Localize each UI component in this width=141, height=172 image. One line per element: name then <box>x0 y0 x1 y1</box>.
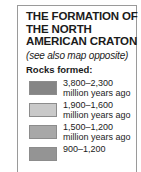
legend-color-swatch <box>29 125 57 139</box>
legend-item: 1,900–1,600 million years ago <box>26 101 132 123</box>
panel-title-line-3: AMERICAN CRATON <box>26 35 132 48</box>
legend-item-unit: million years ago <box>63 110 133 121</box>
legend-item-label: 3,800–2,300 million years ago <box>63 78 133 99</box>
panel-title: THE FORMATION OF THE NORTH AMERICAN CRAT… <box>26 10 132 48</box>
legend-item-range: 1,500–1,200 <box>63 122 133 133</box>
legend-color-swatch <box>29 81 57 95</box>
legend-color-swatch <box>29 147 57 161</box>
legend-item-range: 900–1,200 <box>63 144 133 155</box>
legend-item-label: 1,900–1,600 million years ago <box>63 100 133 121</box>
map-legend-panel: THE FORMATION OF THE NORTH AMERICAN CRAT… <box>0 0 141 172</box>
legend-item-unit: million years ago <box>63 132 133 143</box>
legend-item: 3,800–2,300 million years ago <box>26 79 132 101</box>
legend-item-unit: million years ago <box>63 88 133 99</box>
panel-title-line-2: THE NORTH <box>26 23 132 36</box>
panel-right-rule <box>136 5 137 172</box>
legend-item-label: 1,500–1,200 million years ago <box>63 122 133 143</box>
legend-item: 1,500–1,200 million years ago <box>26 123 132 145</box>
legend-list: 3,800–2,300 million years ago 1,900–1,60… <box>26 79 132 167</box>
legend-item-range: 1,900–1,600 <box>63 100 133 111</box>
legend-content: THE FORMATION OF THE NORTH AMERICAN CRAT… <box>26 10 132 167</box>
panel-top-rule <box>17 5 137 6</box>
legend-heading: Rocks formed: <box>26 64 132 75</box>
legend-item-range: 3,800–2,300 <box>63 78 133 89</box>
panel-left-rule <box>17 5 18 172</box>
panel-subtitle: (see also map opposite) <box>26 50 132 62</box>
panel-title-line-1: THE FORMATION OF <box>26 10 132 23</box>
legend-item: 900–1,200 <box>26 145 132 167</box>
legend-color-swatch <box>29 103 57 117</box>
legend-item-label: 900–1,200 <box>63 144 133 155</box>
